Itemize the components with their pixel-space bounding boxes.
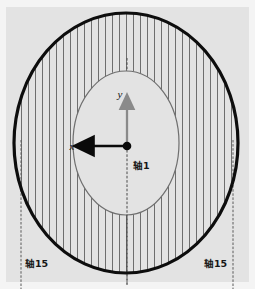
origin-point xyxy=(123,142,132,151)
right-axis-label: 轴15 xyxy=(204,258,227,269)
center-axis-label: 轴1 xyxy=(133,160,150,171)
x-axis-label: x xyxy=(69,140,75,152)
left-axis-label: 轴15 xyxy=(25,258,48,269)
cross-section-diagram: y x 轴1 轴15 轴15 xyxy=(0,0,255,289)
diagram-canvas: y x 轴1 轴15 轴15 xyxy=(0,0,255,289)
y-axis-label: y xyxy=(117,88,123,100)
